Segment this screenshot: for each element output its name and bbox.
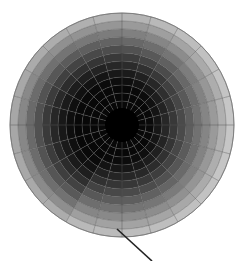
center-disk	[105, 108, 139, 142]
polar-grid-diagram	[0, 0, 243, 261]
